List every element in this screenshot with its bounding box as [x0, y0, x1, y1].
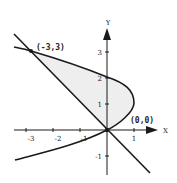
y-tick-label: 1	[98, 101, 102, 109]
y-axis-label: Y	[105, 19, 111, 27]
y-tick-label: 3	[98, 49, 102, 57]
diagram: -3 -2 -1 1 3 2 1 -1 X Y (-3,3) (0,0)	[0, 0, 177, 183]
x-axis-arrow-icon	[146, 126, 158, 134]
y-tick-label: -1	[95, 153, 102, 161]
y-axis-arrow-icon	[103, 28, 111, 40]
point-label: (-3,3)	[36, 43, 65, 52]
x-tick-label: -2	[55, 135, 62, 143]
intersection-point	[105, 128, 109, 132]
x-tick-label: -3	[28, 135, 35, 143]
x-tick-label: 1	[132, 135, 136, 143]
x-axis-label: X	[163, 127, 168, 135]
y-tick-label: 2	[98, 75, 102, 83]
shaded-region-fill	[31, 51, 134, 130]
intersection-point	[29, 49, 33, 53]
point-label: (0,0)	[130, 116, 154, 125]
